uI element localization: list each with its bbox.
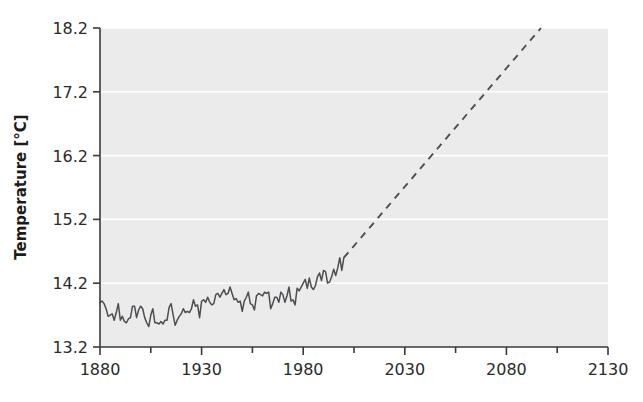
x-tick-label: 1880 — [80, 360, 121, 379]
y-tick-label: 13.2 — [52, 338, 88, 357]
y-tick-label: 14.2 — [52, 274, 88, 293]
chart-figure: 13.214.215.216.217.218.2 188019301980203… — [0, 0, 643, 402]
y-tick-label: 18.2 — [52, 19, 88, 38]
y-tick-label: 15.2 — [52, 210, 88, 229]
x-tick-label: 1930 — [181, 360, 222, 379]
temperature-projection-chart: 13.214.215.216.217.218.2 188019301980203… — [0, 0, 643, 402]
y-axis-title: Temperature [°C] — [12, 114, 30, 259]
x-tick-label: 2130 — [588, 360, 629, 379]
y-tick-label: 17.2 — [52, 83, 88, 102]
y-tick-label: 16.2 — [52, 147, 88, 166]
x-tick-label: 2030 — [384, 360, 425, 379]
plot-area-background — [100, 28, 608, 347]
x-tick-label: 2080 — [486, 360, 527, 379]
x-tick-label: 1980 — [283, 360, 324, 379]
